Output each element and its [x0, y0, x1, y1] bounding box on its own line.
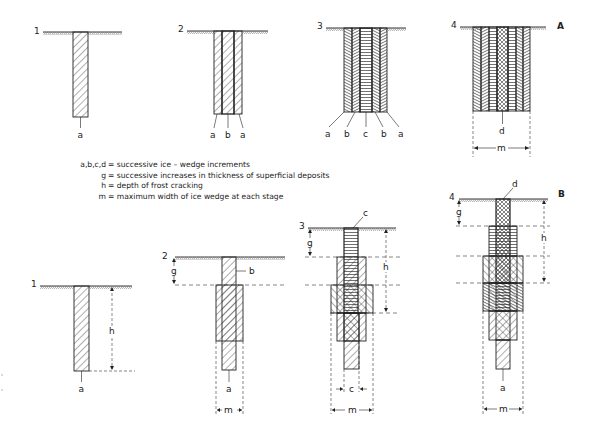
legend-row: m = maximum width of ice wedge at each s… — [42, 192, 330, 203]
legend-text: = depth of frost cracking — [108, 181, 203, 192]
dimension-m: m — [224, 405, 233, 415]
label-b: b — [225, 130, 231, 140]
label-c: c — [363, 208, 368, 218]
series-label-b: B — [558, 189, 565, 199]
label-a: a — [78, 130, 84, 140]
legend-text: = maximum width of ice wedge at each sta… — [108, 192, 283, 203]
dimension-h: h — [383, 262, 389, 272]
dimension-h: h — [109, 326, 115, 336]
stage-number: 1 — [34, 26, 40, 36]
dimension-c: c — [349, 384, 354, 394]
margin-marks — [1, 375, 3, 390]
stage-number: 2 — [162, 251, 168, 261]
legend-text: = successive increases in thickness of s… — [108, 171, 330, 182]
dimension-g: g — [456, 207, 462, 217]
legend-key: g — [42, 171, 108, 182]
ice-wedge-diagram: 1 a 2 a b a 3 a — [0, 0, 590, 440]
label-b: b — [249, 266, 255, 276]
label-b: b — [381, 129, 387, 139]
stage-number: 3 — [317, 21, 323, 31]
stage-a1: 1 a — [34, 26, 122, 140]
label-d: d — [512, 179, 518, 189]
label-a: a — [210, 130, 216, 140]
label-a: a — [398, 129, 404, 139]
label-d: d — [499, 126, 505, 136]
stage-a4: 4 d m A — [451, 20, 564, 157]
dimension-g: g — [171, 266, 177, 276]
label-c: c — [363, 129, 368, 139]
stage-number: 4 — [449, 192, 455, 202]
legend-row: h = depth of frost cracking — [42, 181, 330, 192]
stage-number: 3 — [299, 221, 305, 231]
stage-b4: 4 d g h a — [449, 179, 565, 414]
dimension-m: m — [499, 404, 508, 414]
dimension-h: h — [541, 233, 547, 243]
legend-row: g = successive increases in thickness of… — [42, 171, 330, 182]
label-a: a — [79, 384, 85, 394]
stage-number: 4 — [451, 20, 457, 30]
stage-number: 1 — [31, 279, 37, 289]
stage-b2: 2 b g a m — [162, 251, 285, 415]
stage-b3: 3 c g h c — [299, 208, 400, 415]
label-a: a — [240, 130, 246, 140]
dimension-m: m — [348, 405, 357, 415]
label-b: b — [344, 129, 350, 139]
legend-key: a,b,c,d — [42, 160, 108, 171]
label-a: a — [226, 384, 232, 394]
stage-number: 2 — [178, 24, 184, 34]
legend-key: h — [42, 181, 108, 192]
stage-a3: 3 a b c b a — [317, 21, 406, 139]
legend-row: a,b,c,d = successive ice – wedge increme… — [42, 160, 330, 171]
label-a: a — [325, 129, 331, 139]
dimension-g: g — [307, 238, 313, 248]
legend: a,b,c,d = successive ice – wedge increme… — [42, 160, 330, 202]
stage-a2: 2 a b a — [178, 24, 268, 140]
legend-text: = successive ice – wedge increments — [108, 160, 250, 171]
dimension-m: m — [497, 143, 506, 153]
label-a: a — [500, 383, 506, 393]
stage-b1: 1 h a — [31, 279, 135, 394]
series-label-a: A — [557, 21, 564, 31]
legend-key: m — [42, 192, 108, 203]
